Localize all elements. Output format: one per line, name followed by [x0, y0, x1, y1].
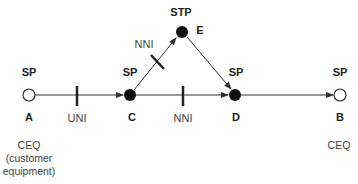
nni-label-ce: NNI: [135, 39, 154, 50]
node-e: [176, 26, 188, 38]
uni-label: UNI: [68, 113, 87, 124]
ceq-a-line1: CEQ: [3, 139, 56, 152]
node-e-id: E: [196, 25, 203, 36]
node-a-type: SP: [22, 67, 37, 78]
edge-e-d: [187, 37, 231, 89]
node-c: [124, 89, 136, 101]
ceq-a-line3: equipment): [3, 165, 56, 178]
ceq-a-line2: (customer: [3, 152, 56, 165]
node-d: [229, 89, 241, 101]
node-e-type: STP: [170, 7, 191, 18]
node-d-id: D: [232, 112, 240, 123]
node-a: [23, 89, 35, 101]
ceq-a-label: CEQ (customer equipment): [3, 139, 56, 178]
node-b-id: B: [336, 112, 344, 123]
node-c-type: SP: [123, 67, 138, 78]
nni-label-cd: NNI: [174, 113, 193, 124]
node-b-type: SP: [333, 67, 348, 78]
node-b: [334, 89, 346, 101]
ceq-b-label: CEQ: [328, 139, 351, 152]
node-a-id: A: [25, 112, 33, 123]
node-d-type: SP: [229, 67, 244, 78]
node-c-id: C: [128, 112, 136, 123]
